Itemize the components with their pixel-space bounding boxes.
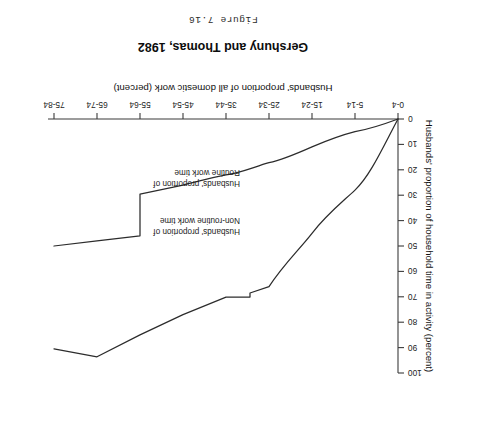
annotation-routine-line2: Routine work time: [174, 168, 240, 177]
x-tick-label: 75-84: [43, 100, 65, 110]
y-tick-label: 40: [408, 216, 418, 226]
x-tick-labels: 0-4 5-14 15-24 25-34 35-44 45-54 55-64 6…: [43, 100, 404, 110]
y-tick-group: [398, 119, 404, 373]
y-tick-label: 90: [408, 343, 418, 353]
y-tick-label: 30: [408, 190, 418, 200]
x-tick-label: 5-14: [346, 100, 363, 110]
annotation-non-routine: Husbands' proportion of Non-routine work…: [153, 216, 240, 236]
x-tick-group: [54, 113, 398, 119]
y-tick-label: 10: [408, 139, 418, 149]
x-tick-label: 0-4: [392, 100, 404, 110]
plot-area: 0 10 20 30 40 50 60 70 80 90 100: [40, 81, 440, 381]
annotation-non-routine-line1: Husbands' proportion of: [153, 227, 240, 236]
y-axis-title: Husbands' proportion of household time i…: [424, 120, 435, 372]
y-tick-label: 0: [408, 114, 413, 124]
y-tick-label: 60: [408, 266, 418, 276]
annotation-non-routine-line2: Non-routine work time: [159, 216, 240, 225]
y-tick-label: 20: [408, 165, 418, 175]
x-tick-label: 65-74: [86, 100, 108, 110]
annotation-routine-line1: Husbands' proportion of: [153, 179, 240, 188]
y-tick-label: 100: [408, 368, 422, 378]
annotation-routine: Husbands' proportion of Routine work tim…: [153, 168, 240, 188]
chart-title: Gershuny and Thomas, 1982: [138, 40, 308, 54]
figure-rotator: 0 10 20 30 40 50 60 70 80 90 100: [0, 0, 486, 421]
x-tick-label: 35-44: [215, 100, 237, 110]
x-tick-label: 15-24: [301, 100, 323, 110]
y-tick-label: 80: [408, 317, 418, 327]
x-axis-title: Husbands' proportion of all domestic wor…: [114, 83, 333, 94]
figure-caption: Figure 7.16: [188, 14, 257, 25]
y-tick-labels: 0 10 20 30 40 50 60 70 80 90 100: [408, 114, 422, 378]
y-tick-label: 70: [408, 292, 418, 302]
x-tick-label: 45-54: [172, 100, 194, 110]
line-chart: 0 10 20 30 40 50 60 70 80 90 100: [40, 81, 440, 381]
x-tick-label: 25-34: [258, 100, 280, 110]
y-tick-label: 50: [408, 241, 418, 251]
series-non-routine-line: [54, 119, 398, 357]
x-tick-label: 55-64: [129, 100, 151, 110]
